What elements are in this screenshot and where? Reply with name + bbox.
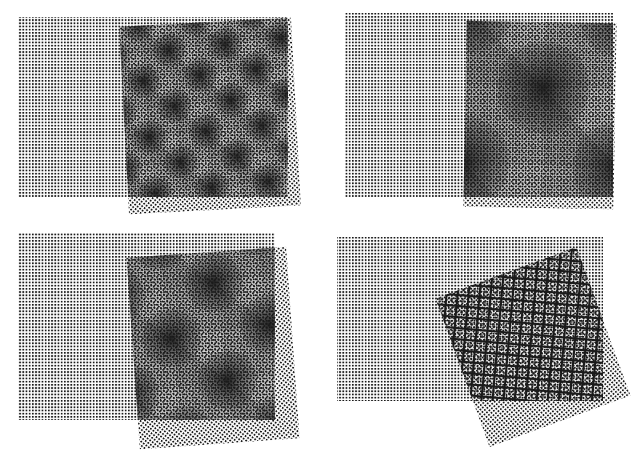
moire-panel-top-right: [345, 13, 617, 209]
moire-interference: [463, 21, 616, 210]
moire-interference: [119, 18, 301, 215]
moire-panel-bottom-right: [337, 237, 630, 447]
moire-figure: [0, 0, 638, 458]
moire-interference: [126, 247, 299, 450]
moire-panel-bottom-left: [18, 233, 300, 449]
moire-panel-top-left: [18, 17, 301, 214]
